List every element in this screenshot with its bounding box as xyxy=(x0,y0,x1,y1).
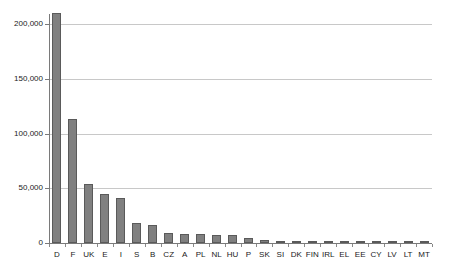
x-axis-tick-mark xyxy=(304,244,305,247)
x-axis-tick-label-cz: CZ xyxy=(163,250,174,260)
x-axis-tick-label-si: SI xyxy=(277,250,285,260)
x-axis-tick-mark xyxy=(65,244,66,247)
bars-layer xyxy=(49,0,432,243)
x-axis-tick-mark xyxy=(49,244,50,247)
x-axis-tick-label-nl: NL xyxy=(211,250,221,260)
bar-s xyxy=(132,223,141,243)
bar-f xyxy=(68,119,77,243)
bar-b xyxy=(148,225,157,243)
bar-d xyxy=(52,13,61,243)
x-axis-tick-mark xyxy=(177,244,178,247)
bar-hu xyxy=(228,235,237,243)
x-axis-tick-mark xyxy=(320,244,321,247)
y-axis-tick-label: 0 xyxy=(1,238,43,247)
x-axis-tick-mark xyxy=(272,244,273,247)
x-axis-tick-mark xyxy=(368,244,369,247)
x-axis-tick-mark xyxy=(97,244,98,247)
x-axis-tick-label-lt: LT xyxy=(404,250,413,260)
x-axis-tick-label-el: EL xyxy=(339,250,349,260)
x-axis-tick-label-a: A xyxy=(182,250,187,260)
x-axis-tick-label-f: F xyxy=(70,250,75,260)
x-axis-tick-label-sk: SK xyxy=(259,250,270,260)
x-axis-tick-mark xyxy=(256,244,257,247)
x-axis-tick-mark xyxy=(352,244,353,247)
bar-ee xyxy=(356,241,365,243)
x-axis-tick-label-p: P xyxy=(246,250,251,260)
x-axis-tick-mark xyxy=(129,244,130,247)
x-axis-tick-mark xyxy=(161,244,162,247)
bar-fin xyxy=(308,241,317,243)
bar-lt xyxy=(404,241,413,243)
x-axis-tick-mark xyxy=(81,244,82,247)
bar-el xyxy=(340,241,349,243)
x-axis-tick-label-irl: IRL xyxy=(322,250,334,260)
bar-irl xyxy=(324,241,333,243)
x-axis-tick-mark xyxy=(225,244,226,247)
x-axis-tick-label-fin: FIN xyxy=(306,250,319,260)
y-axis-tick-label: 200,000 xyxy=(1,19,43,28)
x-axis-tick-mark xyxy=(209,244,210,247)
bar-mt xyxy=(420,241,429,243)
x-axis-tick-label-b: B xyxy=(150,250,155,260)
bar-p xyxy=(244,238,253,243)
x-axis-tick-mark xyxy=(432,244,433,247)
x-axis-tick-label-cy: CY xyxy=(371,250,382,260)
x-axis-tick-label-mt: MT xyxy=(418,250,430,260)
x-axis-tick-mark xyxy=(145,244,146,247)
bar-dk xyxy=(292,241,301,243)
x-axis-tick-label-ee: EE xyxy=(355,250,366,260)
y-axis-tick-label: 100,000 xyxy=(1,129,43,138)
bar-pl xyxy=(196,234,205,243)
x-axis-tick-label-hu: HU xyxy=(227,250,239,260)
bar-si xyxy=(276,241,285,243)
x-axis-tick-mark xyxy=(336,244,337,247)
x-axis-tick-mark xyxy=(241,244,242,247)
x-axis-tick-label-d: D xyxy=(54,250,60,260)
y-axis-tick-label: 150,000 xyxy=(1,74,43,83)
y-axis-tick-label: 50,000 xyxy=(1,183,43,192)
x-axis-tick-label-e: E xyxy=(102,250,107,260)
x-axis-tick-label-uk: UK xyxy=(83,250,94,260)
bar-lv xyxy=(388,241,397,243)
x-axis-tick-label-s: S xyxy=(134,250,139,260)
x-axis-tick-mark xyxy=(113,244,114,247)
x-axis-tick-mark xyxy=(400,244,401,247)
bar-cz xyxy=(164,233,173,243)
bar-sk xyxy=(260,240,269,243)
bar-uk xyxy=(84,184,93,243)
bar-e xyxy=(100,194,109,243)
x-axis-tick-mark xyxy=(384,244,385,247)
x-axis-tick-mark xyxy=(288,244,289,247)
x-axis-tick-label-dk: DK xyxy=(291,250,302,260)
x-axis-tick-label-lv: LV xyxy=(387,250,396,260)
x-axis-tick-mark xyxy=(193,244,194,247)
bar-chart: 050,000100,000150,000200,000 DFUKEISBCZA… xyxy=(0,0,452,276)
bar-a xyxy=(180,234,189,243)
x-axis-tick-label-i: I xyxy=(120,250,122,260)
bar-cy xyxy=(372,241,381,243)
x-axis-tick-label-pl: PL xyxy=(196,250,206,260)
bar-nl xyxy=(212,235,221,243)
bar-i xyxy=(116,198,125,243)
x-axis-tick-mark xyxy=(416,244,417,247)
